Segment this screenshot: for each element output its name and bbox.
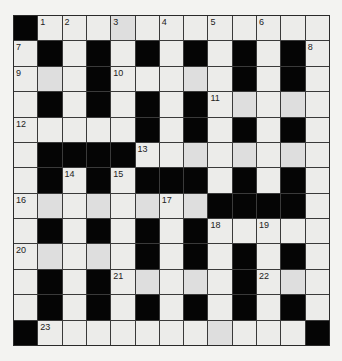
answer-cell[interactable]: 15 (111, 168, 134, 192)
answer-cell[interactable] (208, 295, 231, 319)
answer-cell[interactable]: 8 (306, 41, 329, 65)
answer-cell[interactable] (281, 270, 304, 294)
answer-cell[interactable] (306, 244, 329, 268)
answer-cell[interactable] (63, 194, 86, 218)
answer-cell[interactable] (87, 118, 110, 142)
answer-cell[interactable] (111, 92, 134, 116)
answer-cell[interactable] (306, 270, 329, 294)
answer-cell[interactable] (160, 270, 183, 294)
answer-cell[interactable] (306, 143, 329, 167)
answer-cell[interactable] (208, 41, 231, 65)
answer-cell[interactable] (87, 16, 110, 40)
answer-cell[interactable] (111, 194, 134, 218)
answer-cell[interactable] (111, 295, 134, 319)
answer-cell[interactable] (136, 194, 159, 218)
answer-cell[interactable] (281, 92, 304, 116)
answer-cell[interactable] (111, 321, 134, 345)
answer-cell[interactable] (63, 41, 86, 65)
answer-cell[interactable] (87, 194, 110, 218)
answer-cell[interactable] (208, 143, 231, 167)
answer-cell[interactable]: 17 (160, 194, 183, 218)
answer-cell[interactable] (208, 168, 231, 192)
answer-cell[interactable] (306, 67, 329, 91)
answer-cell[interactable] (14, 270, 37, 294)
answer-cell[interactable] (306, 194, 329, 218)
answer-cell[interactable]: 14 (63, 168, 86, 192)
answer-cell[interactable] (306, 118, 329, 142)
answer-cell[interactable] (281, 16, 304, 40)
answer-cell[interactable]: 13 (136, 143, 159, 167)
answer-cell[interactable]: 18 (208, 219, 231, 243)
answer-cell[interactable] (306, 92, 329, 116)
answer-cell[interactable] (14, 295, 37, 319)
answer-cell[interactable] (257, 295, 280, 319)
answer-cell[interactable] (184, 16, 207, 40)
answer-cell[interactable] (63, 67, 86, 91)
answer-cell[interactable] (184, 194, 207, 218)
answer-cell[interactable] (184, 143, 207, 167)
answer-cell[interactable]: 20 (14, 244, 37, 268)
answer-cell[interactable] (160, 143, 183, 167)
answer-cell[interactable]: 6 (257, 16, 280, 40)
answer-cell[interactable] (14, 219, 37, 243)
answer-cell[interactable] (184, 321, 207, 345)
answer-cell[interactable] (38, 67, 61, 91)
answer-cell[interactable] (63, 295, 86, 319)
answer-cell[interactable] (233, 219, 256, 243)
answer-cell[interactable] (208, 321, 231, 345)
answer-cell[interactable] (111, 219, 134, 243)
answer-cell[interactable] (233, 92, 256, 116)
answer-cell[interactable] (257, 118, 280, 142)
answer-cell[interactable] (160, 219, 183, 243)
answer-cell[interactable] (38, 194, 61, 218)
answer-cell[interactable] (160, 244, 183, 268)
answer-cell[interactable] (257, 143, 280, 167)
answer-cell[interactable] (306, 16, 329, 40)
answer-cell[interactable] (63, 92, 86, 116)
answer-cell[interactable]: 21 (111, 270, 134, 294)
answer-cell[interactable] (257, 321, 280, 345)
answer-cell[interactable] (208, 270, 231, 294)
answer-cell[interactable] (63, 321, 86, 345)
answer-cell[interactable] (233, 16, 256, 40)
answer-cell[interactable]: 22 (257, 270, 280, 294)
answer-cell[interactable] (160, 321, 183, 345)
answer-cell[interactable] (160, 92, 183, 116)
answer-cell[interactable] (281, 219, 304, 243)
answer-cell[interactable]: 12 (14, 118, 37, 142)
answer-cell[interactable] (38, 244, 61, 268)
answer-cell[interactable]: 23 (38, 321, 61, 345)
answer-cell[interactable]: 4 (160, 16, 183, 40)
answer-cell[interactable]: 1 (38, 16, 61, 40)
answer-cell[interactable] (87, 321, 110, 345)
answer-cell[interactable] (87, 244, 110, 268)
answer-cell[interactable] (160, 295, 183, 319)
answer-cell[interactable] (63, 118, 86, 142)
answer-cell[interactable] (257, 168, 280, 192)
answer-cell[interactable] (257, 92, 280, 116)
answer-cell[interactable] (160, 67, 183, 91)
answer-cell[interactable]: 7 (14, 41, 37, 65)
answer-cell[interactable] (306, 295, 329, 319)
answer-cell[interactable] (136, 270, 159, 294)
answer-cell[interactable]: 19 (257, 219, 280, 243)
answer-cell[interactable] (63, 219, 86, 243)
answer-cell[interactable] (208, 118, 231, 142)
answer-cell[interactable]: 5 (208, 16, 231, 40)
answer-cell[interactable] (136, 67, 159, 91)
answer-cell[interactable] (208, 67, 231, 91)
answer-cell[interactable] (63, 270, 86, 294)
answer-cell[interactable] (160, 118, 183, 142)
answer-cell[interactable] (136, 321, 159, 345)
answer-cell[interactable] (38, 118, 61, 142)
answer-cell[interactable]: 3 (111, 16, 134, 40)
answer-cell[interactable] (184, 270, 207, 294)
answer-cell[interactable]: 9 (14, 67, 37, 91)
answer-cell[interactable] (111, 41, 134, 65)
answer-cell[interactable] (111, 118, 134, 142)
answer-cell[interactable] (184, 67, 207, 91)
answer-cell[interactable] (14, 168, 37, 192)
answer-cell[interactable] (257, 41, 280, 65)
answer-cell[interactable] (257, 67, 280, 91)
answer-cell[interactable]: 2 (63, 16, 86, 40)
